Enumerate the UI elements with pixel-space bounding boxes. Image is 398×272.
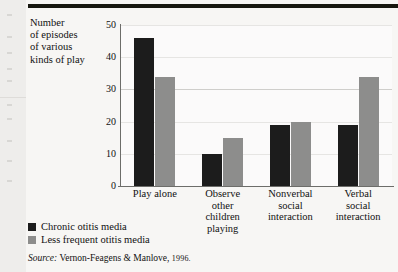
bar-group	[134, 25, 175, 186]
legend-swatch-icon	[28, 223, 36, 231]
legend-swatch-icon	[28, 236, 36, 244]
source-citation: Vernon-Feagens & Manlove,	[59, 253, 169, 263]
y-tick-label-40: 40	[82, 52, 116, 62]
x-category-label-line: interaction	[250, 211, 330, 223]
bar[interactable]	[134, 38, 154, 186]
x-axis-line	[118, 186, 394, 187]
plot-area	[121, 25, 392, 186]
y-tick-label-30: 30	[82, 84, 116, 94]
legend-item-label: Chronic otitis media	[41, 221, 127, 232]
bar[interactable]	[291, 122, 311, 186]
chart-legend: Chronic otitis mediaLess frequent otitis…	[28, 220, 150, 246]
x-category-label: Play alone	[116, 188, 194, 200]
x-category-label-line: playing	[192, 223, 254, 235]
x-category-label: Nonverbalsocialinteraction	[250, 188, 330, 223]
legend-item-label: Less frequent otitis media	[41, 234, 150, 245]
y-tick-label-0: 0	[82, 181, 116, 191]
legend-item[interactable]: Chronic otitis media	[28, 220, 150, 233]
x-category-label-line: Nonverbal	[250, 188, 330, 200]
x-category-label: Observeotherchildrenplaying	[192, 188, 254, 234]
source-label: Source:	[28, 253, 57, 263]
x-category-label-line: other	[192, 200, 254, 212]
x-category-label-line: interaction	[322, 211, 394, 223]
x-category-label-line: Play alone	[116, 188, 194, 200]
x-category-label-line: social	[250, 200, 330, 212]
bar[interactable]	[155, 77, 175, 186]
legend-item[interactable]: Less frequent otitis media	[28, 233, 150, 246]
bar[interactable]	[202, 154, 222, 186]
y-tick-label-20: 20	[82, 117, 116, 127]
bar[interactable]	[270, 125, 290, 186]
x-category-label-line: Verbal	[322, 188, 394, 200]
bar-group	[338, 25, 379, 186]
bar[interactable]	[359, 77, 379, 186]
y-tick-label-10: 10	[82, 149, 116, 159]
x-category-label-line: children	[192, 211, 254, 223]
bar-group	[270, 25, 311, 186]
x-category-label: Verbalsocialinteraction	[322, 188, 394, 223]
y-tick-label-50: 50	[82, 20, 116, 30]
page-gutter-artifacts	[0, 0, 26, 272]
x-category-label-line: Observe	[192, 188, 254, 200]
x-axis-category-labels: Play aloneObserveotherchildrenplayingNon…	[121, 188, 398, 234]
y-axis-line	[120, 24, 121, 187]
source-note: Source: Vernon-Feagens & Manlove, 1996.	[28, 253, 191, 263]
x-category-label-line: social	[322, 200, 394, 212]
bar[interactable]	[338, 125, 358, 186]
source-year: 1996.	[172, 254, 191, 263]
bar-group	[202, 25, 243, 186]
bar[interactable]	[223, 138, 243, 186]
